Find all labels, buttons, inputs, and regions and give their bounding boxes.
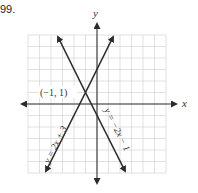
line-y-neg2x-minus-1 bbox=[58, 37, 86, 93]
coordinate-graph: x y (−1, 1) y = 2x + 3 y = −2x − 1 bbox=[0, 0, 198, 193]
x-axis-label: x bbox=[181, 97, 187, 109]
line-y-2x-plus-3 bbox=[86, 37, 114, 93]
intersection-label: (−1, 1) bbox=[40, 87, 67, 99]
y-axis-label: y bbox=[92, 7, 98, 19]
line2-label: y = −2x − 1 bbox=[102, 106, 132, 153]
line1-label: y = 2x + 3 bbox=[41, 124, 69, 166]
